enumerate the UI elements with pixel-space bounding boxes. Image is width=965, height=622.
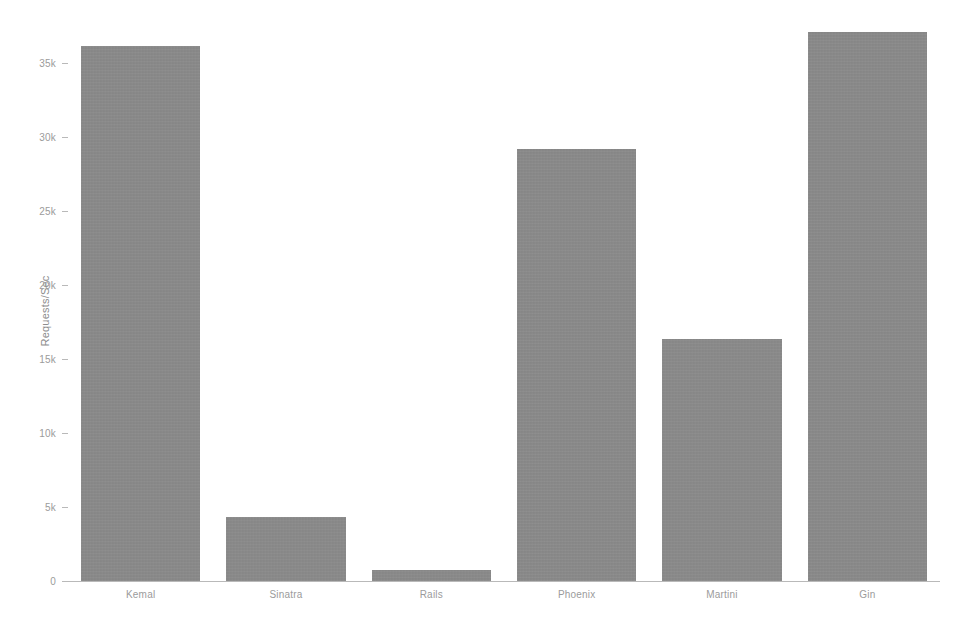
x-axis-label-gin: Gin bbox=[795, 589, 940, 600]
bars-layer: KemalSinatraRailsPhoenixMartiniGin bbox=[0, 0, 965, 622]
bar-sinatra[interactable] bbox=[226, 517, 345, 581]
bar-chart: Requests/Sec 05k10k15k20k25k30k35k Kemal… bbox=[0, 0, 965, 622]
x-axis-label-phoenix: Phoenix bbox=[504, 589, 649, 600]
bar-phoenix[interactable] bbox=[517, 149, 636, 581]
x-axis-label-martini: Martini bbox=[649, 589, 794, 600]
bar-kemal[interactable] bbox=[81, 46, 200, 581]
bar-rails[interactable] bbox=[372, 570, 491, 581]
x-axis-label-sinatra: Sinatra bbox=[213, 589, 358, 600]
bar-martini[interactable] bbox=[662, 339, 781, 581]
x-axis-label-rails: Rails bbox=[359, 589, 504, 600]
x-axis-label-kemal: Kemal bbox=[68, 589, 213, 600]
bar-gin[interactable] bbox=[808, 32, 927, 581]
